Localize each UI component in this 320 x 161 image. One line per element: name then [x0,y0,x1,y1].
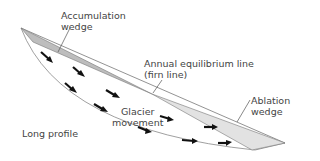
glacier-label-line1: Glacier [112,106,163,117]
ablation-leader [237,100,250,122]
ablation-label: Ablation wedge [251,95,290,117]
ela-label-line1: Annual equilibrium line [144,58,254,69]
accumulation-label: Accumulation wedge [61,10,126,32]
long-profile-label: Long profile [22,128,78,139]
accumulation-label-line1: Accumulation [61,10,126,21]
glacier-label-line2: movement [112,117,163,128]
ablation-label-line2: wedge [251,106,290,117]
accumulation-label-line2: wedge [61,21,126,32]
ablation-label-line1: Ablation [251,95,290,106]
ela-label-line2: (firn line) [144,69,254,80]
ela-label: Annual equilibrium line (firn line) [144,58,254,80]
glacier-movement-label: Glacier movement [112,106,163,128]
